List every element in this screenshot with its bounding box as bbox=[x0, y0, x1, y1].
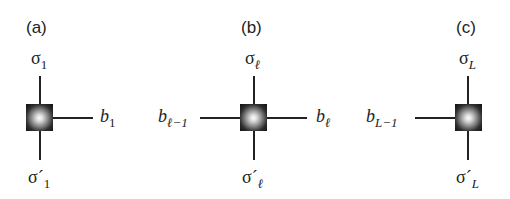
sigma-top-a: σ1 bbox=[31, 48, 47, 73]
bond-leg-right-a bbox=[53, 117, 93, 119]
mpo-tensor-node-c bbox=[455, 104, 482, 131]
bond-label-right-a: b1 bbox=[100, 106, 116, 131]
physical-leg-bottom-b bbox=[253, 131, 255, 160]
physical-leg-bottom-c bbox=[467, 131, 469, 160]
bond-label-right-b: bℓ bbox=[316, 106, 330, 131]
bond-leg-left-b bbox=[200, 117, 240, 119]
sigma-top-b: σℓ bbox=[245, 48, 260, 73]
physical-leg-bottom-a bbox=[39, 131, 41, 160]
sigma-bottom-b: σ´ℓ bbox=[242, 167, 263, 192]
bond-leg-right-b bbox=[267, 117, 307, 119]
mpo-tensor-node-b bbox=[240, 104, 267, 131]
bond-label-left-b: bℓ−1 bbox=[158, 106, 188, 131]
panel-label-a: (a) bbox=[26, 18, 47, 38]
physical-leg-top-c bbox=[467, 76, 469, 104]
bond-label-left-c: bL−1 bbox=[366, 106, 398, 131]
panel-label-b: (b) bbox=[241, 18, 262, 38]
sigma-bottom-a: σ´1 bbox=[28, 167, 50, 192]
physical-leg-top-b bbox=[253, 76, 255, 104]
bond-leg-left-c bbox=[415, 117, 455, 119]
physical-leg-top-a bbox=[39, 76, 41, 104]
sigma-bottom-c: σ´L bbox=[456, 167, 479, 192]
mpo-tensor-node-a bbox=[26, 104, 53, 131]
panel-label-c: (c) bbox=[456, 18, 476, 38]
sigma-top-c: σL bbox=[459, 48, 476, 73]
